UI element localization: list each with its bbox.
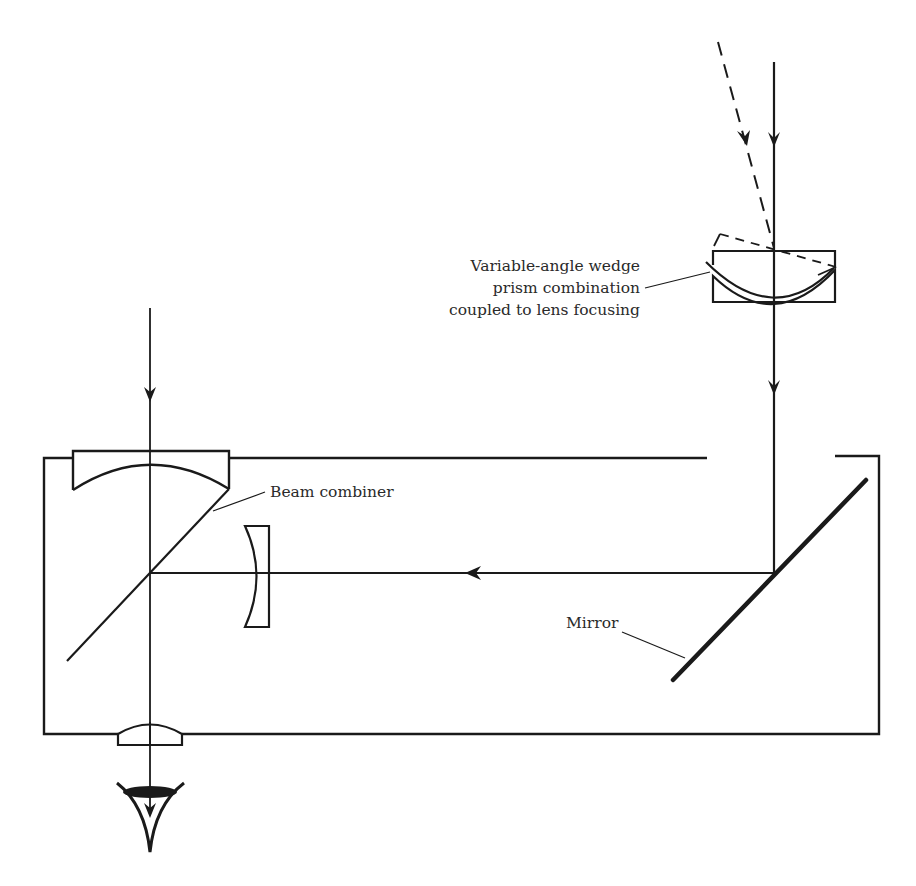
incoming-ray-solid (768, 62, 780, 573)
incoming-ray-dashed (718, 42, 774, 248)
eyepiece-lens (118, 722, 182, 745)
beam-combiner-label: Beam combiner (270, 483, 394, 501)
wedge-prism-label: Variable-angle wedge prism combination c… (449, 257, 640, 319)
concave-lens (245, 526, 269, 627)
eye-icon (117, 783, 184, 852)
mirror-label: Mirror (566, 614, 619, 632)
label-line-1: Variable-angle wedge (469, 257, 640, 275)
objective-lens-top (73, 451, 229, 490)
optical-diagram: Variable-angle wedge prism combination c… (0, 0, 916, 886)
folded-ray (150, 566, 774, 580)
variable-angle-wedge-prism (645, 234, 836, 304)
fold-mirror: Mirror (566, 480, 866, 680)
label-line-2: prism combination (493, 279, 640, 297)
label-line-3: coupled to lens focusing (449, 301, 640, 319)
